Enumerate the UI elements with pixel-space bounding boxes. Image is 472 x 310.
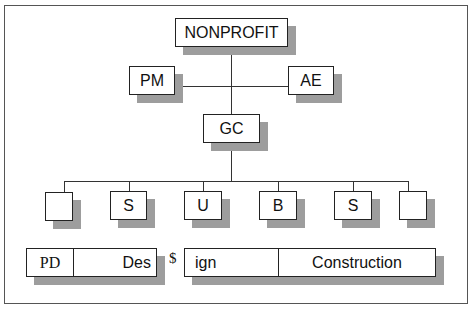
connector-sub-2 (129, 181, 130, 191)
gc-label: GC (220, 120, 244, 138)
sub-2-label: S (123, 197, 134, 215)
pm-label: PM (140, 72, 164, 90)
ae-label: AE (300, 72, 321, 90)
sub-5-label: S (348, 197, 359, 215)
connector-sub-4 (278, 181, 279, 191)
connector-sub-6 (408, 181, 409, 191)
phase-des-label: Des (123, 254, 151, 272)
phase-pd-label: PD (40, 254, 60, 272)
sub-node-2: S (110, 191, 147, 220)
connector-sub-1 (64, 181, 65, 192)
connector-sub-3 (203, 181, 204, 191)
root-node-nonprofit: NONPROFIT (175, 18, 288, 47)
sub-node-3: U (184, 191, 222, 220)
sub-node-1 (45, 192, 73, 221)
sub-node-6 (399, 191, 427, 220)
phase-ign-label: ign (195, 254, 216, 272)
connector-sub-5 (353, 181, 354, 191)
phase-separator-dollar: $ (169, 250, 177, 267)
phase-pd: PD (27, 249, 74, 276)
connector-root-to-gc (231, 47, 232, 114)
connector-pm-ae (175, 86, 288, 87)
advisor-node-pm: PM (129, 66, 175, 95)
sub-3-label: U (197, 197, 209, 215)
phase-construction-label: Construction (312, 254, 402, 272)
contractor-node-gc: GC (203, 114, 260, 143)
sub-4-label: B (273, 197, 284, 215)
phase-bar-2: ign Construction (184, 248, 436, 277)
phase-construction: Construction (279, 249, 435, 276)
phase-bar-1: PD Des (26, 248, 157, 277)
sub-node-5: S (334, 191, 372, 220)
phase-des: Des (74, 249, 156, 276)
advisor-node-ae: AE (288, 66, 334, 95)
connector-subs-bar (64, 181, 409, 182)
sub-node-4: B (259, 191, 297, 220)
root-label: NONPROFIT (184, 24, 278, 42)
phase-ign: ign (185, 249, 279, 276)
